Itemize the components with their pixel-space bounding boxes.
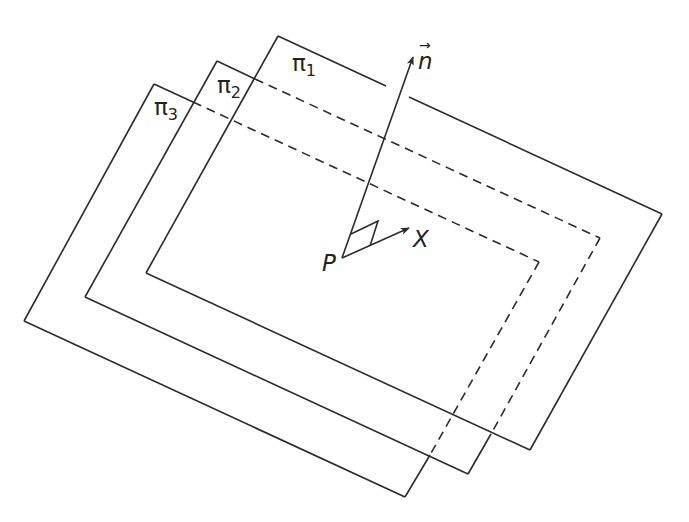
plane-label-pi3: π3 [154,96,178,123]
hidden-edge [193,102,539,262]
plane-edge [530,214,662,450]
plane-label-pi2: π2 [217,74,241,101]
plane-edge [24,84,154,321]
normal-vector-label: → n [418,50,433,73]
plane-pi3 [24,84,539,497]
hidden-edge [491,238,600,434]
right-angle-marker [351,221,378,246]
plane-edge [468,434,491,474]
plane-edge [85,297,468,474]
plane-label-pi1: π1 [292,52,316,79]
plane-edge [409,97,662,214]
vector-px-arrow [342,228,409,258]
point-x-label: X [413,228,429,251]
normal-vector-arrow [342,57,413,258]
planes-group [24,36,662,497]
vector-arrow-accent: → [419,38,431,52]
plane-edge [405,455,430,497]
plane-edge [146,273,530,450]
hidden-edge [255,79,600,238]
plane-edge [85,61,217,297]
diagram-canvas [0,0,689,522]
point-p-label: P [322,252,336,275]
hidden-edge [430,262,539,455]
plane-edge [24,321,405,497]
